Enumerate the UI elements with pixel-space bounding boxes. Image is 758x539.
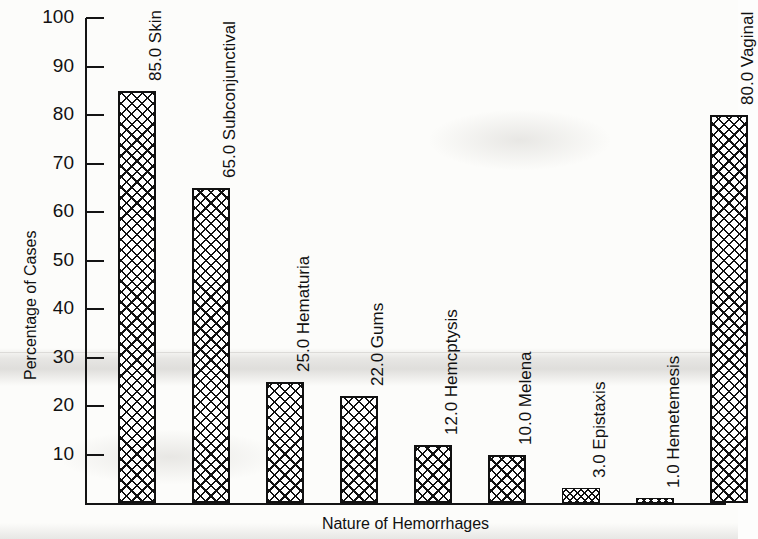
- bar-value-label: 25.0 Hematuria: [294, 256, 314, 372]
- bar-value-label: 65.0 Subconjunctival: [220, 21, 240, 178]
- bar-value-label: 85.0 Skin: [146, 10, 166, 81]
- bar-value-label: 22.0 Gums: [368, 303, 388, 386]
- bar-value-label: 1.0 Hemetemesis: [664, 356, 684, 488]
- bar-value-label: 10.0 Melena: [516, 351, 536, 445]
- bar-value-label: 80.0 Vaginal: [738, 12, 758, 105]
- bar-value-label: 12.0 Hemcptysis: [442, 309, 462, 435]
- bar-value-label: 3.0 Epistaxis: [590, 382, 610, 478]
